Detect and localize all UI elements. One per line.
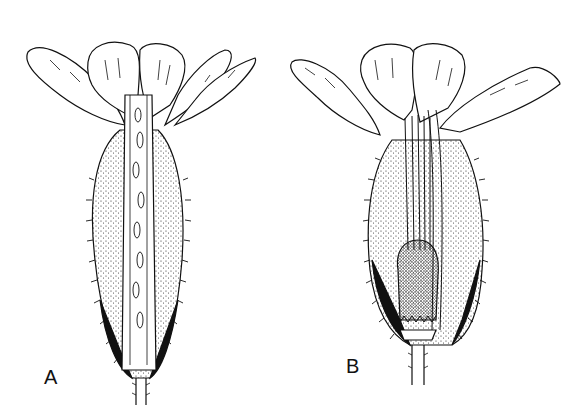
pedicel-b bbox=[412, 345, 424, 385]
panel-label-b: B bbox=[346, 355, 359, 378]
style-a bbox=[122, 95, 156, 370]
flower-a bbox=[27, 42, 256, 405]
panel-label-a: A bbox=[44, 366, 57, 389]
flower-b bbox=[291, 44, 560, 385]
pedicel-a bbox=[136, 378, 146, 405]
ovary-b bbox=[397, 240, 438, 320]
botanical-figure bbox=[0, 0, 588, 409]
petal-b-center-left bbox=[361, 44, 417, 120]
